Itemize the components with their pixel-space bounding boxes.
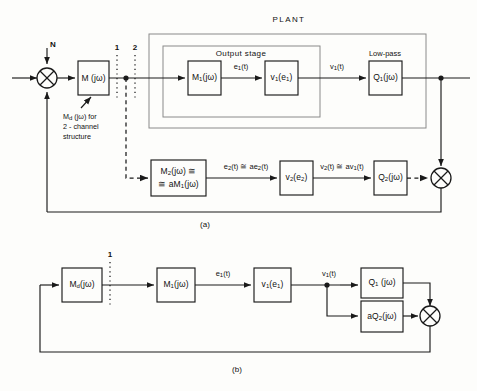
block-v1e1-label-b: v1(e1) (262, 280, 284, 289)
signal-e1-label-b: e1(t) (216, 270, 231, 278)
output-stage-label: Output stage (216, 50, 267, 58)
block-v2e2-label: v2(e2) (286, 173, 308, 182)
low-pass-label: Low-pass (369, 50, 401, 58)
signal-v1t-label-b: v1(t) (322, 270, 336, 278)
block-aq2-label-b: aQ2(jω) (367, 312, 397, 321)
signal-v2t-label: v2(t) ≅ av1(t) (320, 163, 364, 171)
signal-v1t-label-a: v1(t) (330, 63, 344, 71)
block-q1-label-b: Q1 (jω) (368, 278, 395, 287)
signal-e2-label: e2(t) ≅ ae2(t) (224, 163, 269, 171)
block-q1-label-a: Q1(jω) (373, 73, 398, 82)
channel-2-label-a: 2 (133, 44, 137, 52)
signal-e1-label-a: e1(t) (234, 63, 249, 71)
figure-container: PLANT Output stage Low-pass N 1 2 M (jω)… (0, 0, 477, 391)
md-annotation: Md (jω) for 2 - channel structure (63, 112, 99, 142)
block-v1e1-label-a: v1(e1) (271, 73, 293, 82)
block-q2-label: Q2(jω) (378, 173, 403, 182)
channel-1-label-b: 1 (108, 251, 112, 259)
block-md-label-b: Md(jω) (69, 280, 94, 289)
caption-b: (b) (232, 366, 242, 374)
channel-1-label-a: 1 (115, 44, 119, 52)
block-m-label: M (jω) (81, 74, 105, 83)
caption-a: (a) (200, 221, 210, 229)
block-m2-label: M2(jω) ≅ ≅ aM1(jω) (158, 165, 199, 191)
noise-input-label: N (50, 41, 56, 49)
diagram-vector-layer (0, 0, 477, 391)
block-m1-label-b: M1(jω) (163, 280, 188, 289)
plant-label: PLANT (273, 16, 306, 24)
block-m1-label-a: M1(jω) (192, 73, 217, 82)
